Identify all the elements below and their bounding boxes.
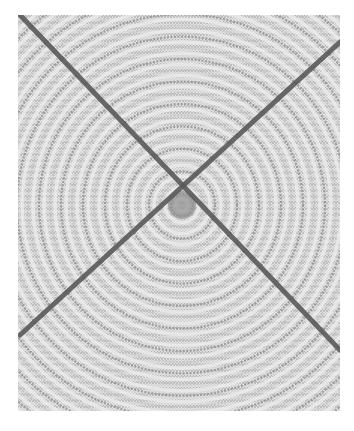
woven-mat-photo — [18, 15, 340, 411]
woven-mat-illustration — [18, 15, 340, 411]
